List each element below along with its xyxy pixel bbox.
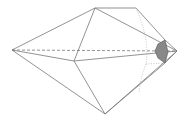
hidden-edges [12,8,177,92]
shaded-face [155,40,168,63]
visible-edges [12,8,177,114]
polyhedron-diagram [0,0,188,121]
